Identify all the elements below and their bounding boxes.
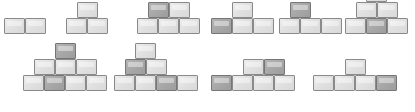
brick bbox=[156, 75, 177, 91]
brick-highlight bbox=[267, 62, 282, 67]
brick-highlight bbox=[348, 62, 363, 67]
brick-highlight bbox=[7, 21, 22, 26]
brick-highlight bbox=[246, 62, 261, 67]
brick bbox=[65, 75, 86, 91]
brick-figures-canvas bbox=[0, 0, 415, 112]
brick-highlight bbox=[138, 78, 153, 83]
brick bbox=[135, 75, 156, 91]
brick bbox=[355, 75, 376, 91]
brick-highlight bbox=[214, 78, 229, 83]
brick bbox=[177, 75, 198, 91]
brick-highlight bbox=[58, 62, 73, 67]
brick bbox=[334, 75, 355, 91]
brick-highlight bbox=[180, 78, 195, 83]
brick bbox=[76, 59, 97, 75]
brick bbox=[313, 75, 334, 91]
brick bbox=[135, 43, 156, 59]
brick-highlight bbox=[337, 78, 352, 83]
brick bbox=[211, 75, 232, 91]
brick bbox=[44, 75, 65, 91]
brick bbox=[243, 59, 264, 75]
brick-highlight bbox=[149, 62, 164, 67]
brick-highlight bbox=[358, 78, 373, 83]
brick bbox=[86, 75, 107, 91]
brick bbox=[376, 75, 397, 91]
brick-highlight bbox=[159, 78, 174, 83]
brick bbox=[274, 75, 295, 91]
brick-highlight bbox=[79, 62, 94, 67]
brick bbox=[345, 59, 366, 75]
brick bbox=[23, 75, 44, 91]
brick-highlight bbox=[68, 78, 83, 83]
brick-highlight bbox=[47, 78, 62, 83]
brick bbox=[4, 18, 25, 34]
brick-highlight bbox=[256, 78, 271, 83]
brick bbox=[114, 75, 135, 91]
brick bbox=[34, 59, 55, 75]
brick-highlight bbox=[379, 78, 394, 83]
brick-highlight bbox=[316, 78, 331, 83]
brick bbox=[55, 59, 76, 75]
brick-highlight bbox=[277, 78, 292, 83]
brick bbox=[253, 75, 274, 91]
brick bbox=[146, 59, 167, 75]
brick-highlight bbox=[117, 78, 132, 83]
brick bbox=[232, 75, 253, 91]
brick bbox=[125, 59, 146, 75]
brick-highlight bbox=[128, 62, 143, 67]
brick bbox=[264, 59, 285, 75]
brick bbox=[55, 43, 76, 59]
figure-10 bbox=[313, 0, 415, 112]
brick-highlight bbox=[58, 46, 73, 51]
brick-highlight bbox=[37, 62, 52, 67]
brick-highlight bbox=[235, 78, 250, 83]
brick-highlight bbox=[89, 78, 104, 83]
brick-highlight bbox=[138, 46, 153, 51]
brick-highlight bbox=[26, 78, 41, 83]
